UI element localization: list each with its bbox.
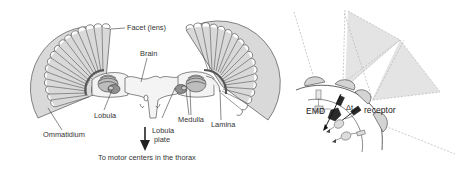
emd-schematic (294, 10, 455, 154)
motor-arrow (140, 127, 150, 151)
figure: Facet (lens) Brain Lobula Medulla Lamina… (0, 0, 473, 169)
label-lobula-plate-line2: plate (154, 136, 170, 143)
label-medulla: Medulla (178, 116, 204, 123)
left-eye-fan (30, 24, 110, 118)
label-motor-centers: To motor centers in the thorax (98, 154, 196, 161)
central-brain (125, 76, 182, 118)
right-optic-lobe (175, 72, 214, 97)
label-receptor: receptor (364, 106, 396, 115)
label-lobula: Lobula (94, 112, 116, 119)
label-lamina: Lamina (211, 121, 235, 128)
right-eye-fan (186, 21, 280, 120)
label-emd: EMD (306, 107, 325, 116)
diagram-graphics (0, 0, 473, 169)
label-facet-lens: Facet (lens) (127, 24, 166, 31)
label-lobula-plate-line1: Lobula (152, 127, 174, 134)
label-ommatidium: Ommatidium (43, 131, 85, 138)
label-brain: Brain (140, 50, 157, 57)
label-delta-t: Δt (346, 104, 353, 111)
left-optic-lobe (92, 73, 128, 98)
